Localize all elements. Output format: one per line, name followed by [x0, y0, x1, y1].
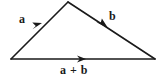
vector-b-arrowhead: [97, 19, 109, 28]
vector-a-arrowhead: [32, 23, 42, 30]
vector-sum-label: a + b: [60, 64, 88, 76]
vector-addition-figure: a b a + b: [0, 0, 162, 80]
vector-a-line: [11, 2, 68, 59]
vector-a-label: a: [19, 13, 25, 25]
vector-b-label: b: [109, 10, 116, 22]
